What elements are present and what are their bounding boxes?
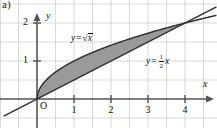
curve-label-sqrt-radicand: x <box>88 33 93 44</box>
origin-label: O <box>40 100 47 111</box>
y-tick-label-1: 1 <box>16 54 28 65</box>
fraction-denominator: 2 <box>159 62 165 70</box>
curve-label-line-var: x <box>165 56 169 66</box>
x-axis-label: x <box>203 78 207 89</box>
radical-icon: √x <box>83 33 93 44</box>
figure-part-label: a) <box>2 0 11 10</box>
fraction-one-half: 12 <box>159 54 165 70</box>
x-tick-label-4: 4 <box>179 104 191 115</box>
x-tick-label-1: 1 <box>68 104 80 115</box>
fraction-numerator: 1 <box>159 54 165 62</box>
x-tick-label-3: 3 <box>142 104 154 115</box>
curve-label-half-x: y=12x <box>146 54 169 70</box>
curve-label-sqrt-x: y=√x <box>71 33 93 44</box>
figure-container: a) y x O 2 1 1 2 3 4 y=√x y=12x <box>0 0 217 128</box>
y-axis-label: y <box>46 10 50 21</box>
x-tick-label-2: 2 <box>105 104 117 115</box>
y-tick-label-2: 2 <box>16 16 28 27</box>
curve-label-line-op: = <box>150 56 157 66</box>
curve-label-sqrt-op: = <box>75 33 82 43</box>
